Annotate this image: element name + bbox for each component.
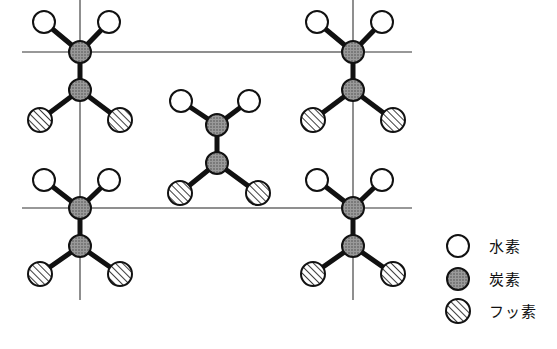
carbon-atom-0 xyxy=(69,41,91,63)
carbon-atom-0 xyxy=(69,197,91,219)
fluorine-atom-1 xyxy=(108,108,132,132)
fluorine-atom-0 xyxy=(28,108,52,132)
hydrogen-atom-1 xyxy=(238,90,260,112)
carbon-atom-0 xyxy=(206,114,228,136)
hydrogen-atom-0 xyxy=(306,169,328,191)
fluorine-atom-1 xyxy=(108,262,132,286)
carbon-atom-1 xyxy=(342,79,364,101)
fluorine-atom-0 xyxy=(301,262,325,286)
legend-item-fluorine: フッ素 xyxy=(446,299,537,323)
fluorine-atom-1 xyxy=(246,181,270,205)
hydrogen-atom-0 xyxy=(306,11,328,33)
crystal-structure-diagram: 水素炭素フッ素 xyxy=(0,0,557,349)
carbon-atom-0 xyxy=(342,197,364,219)
fluorine-atom-1 xyxy=(381,108,405,132)
hydrogen-atom-1 xyxy=(371,11,393,33)
carbon-atom-1 xyxy=(69,79,91,101)
legend-symbol-carbon xyxy=(447,268,469,290)
carbon-atom-0 xyxy=(342,41,364,63)
legend-label-carbon: 炭素 xyxy=(489,271,521,289)
fluorine-atom-1 xyxy=(381,262,405,286)
hydrogen-atom-0 xyxy=(170,90,192,112)
fluorine-atom-0 xyxy=(168,181,192,205)
carbon-atom-1 xyxy=(342,235,364,257)
structure-figure: 水素炭素フッ素 xyxy=(0,0,557,349)
hydrogen-atom-1 xyxy=(98,169,120,191)
hydrogen-atom-1 xyxy=(371,169,393,191)
hydrogen-atom-0 xyxy=(33,11,55,33)
hydrogen-atom-1 xyxy=(98,11,120,33)
carbon-atom-1 xyxy=(69,235,91,257)
carbon-atom-1 xyxy=(206,152,228,174)
legend-label-hydrogen: 水素 xyxy=(489,238,521,256)
legend-symbol-fluorine xyxy=(446,299,470,323)
fluorine-atom-0 xyxy=(301,108,325,132)
legend-symbol-hydrogen xyxy=(447,235,469,257)
legend-label-fluorine: フッ素 xyxy=(489,303,537,321)
fluorine-atom-0 xyxy=(28,262,52,286)
hydrogen-atom-0 xyxy=(33,169,55,191)
